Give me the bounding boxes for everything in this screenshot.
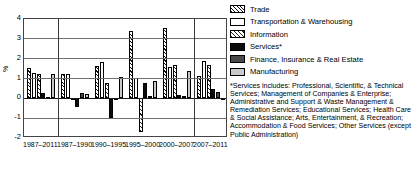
bar bbox=[139, 98, 143, 131]
bar bbox=[207, 65, 211, 99]
legend-footnote: *Services includes: Professional, Scient… bbox=[230, 82, 416, 139]
bar bbox=[129, 31, 133, 98]
y-tick-label: 0 bbox=[3, 93, 21, 101]
gridline bbox=[24, 78, 226, 79]
legend-swatch-icon bbox=[230, 18, 245, 26]
bar bbox=[32, 73, 36, 99]
zero-line bbox=[24, 98, 226, 99]
bar bbox=[109, 98, 113, 117]
plot-area: % 43210-1-2 1987–20111987–19901990–19951… bbox=[0, 0, 232, 171]
y-tick-label: 3 bbox=[3, 34, 21, 42]
legend-label: Trade bbox=[250, 5, 270, 14]
legend-item: Finance, Insurance & Real Estate bbox=[230, 53, 418, 66]
legend-label: Transportation & Warehousing bbox=[250, 17, 352, 26]
group-separator bbox=[58, 19, 59, 136]
chart-figure: % 43210-1-2 1987–20111987–19901990–19951… bbox=[0, 0, 418, 171]
legend-label: Manufacturing bbox=[250, 67, 298, 76]
bar bbox=[202, 61, 206, 98]
chart-legend: TradeTransportation & WarehousingInforma… bbox=[230, 3, 418, 171]
legend-swatch-icon bbox=[230, 5, 245, 13]
bar bbox=[173, 65, 177, 98]
gridline bbox=[24, 38, 226, 39]
x-tick-label: 2007–2011 bbox=[193, 141, 227, 148]
y-tick-label: 1 bbox=[3, 74, 21, 82]
gridline bbox=[24, 58, 226, 59]
bar bbox=[105, 83, 109, 98]
legend-items: TradeTransportation & WarehousingInforma… bbox=[230, 3, 418, 79]
group-separator bbox=[194, 19, 195, 136]
bar bbox=[119, 77, 123, 99]
bar bbox=[75, 98, 79, 106]
legend-label: Services* bbox=[250, 42, 282, 51]
x-tick-label: 2000–2007 bbox=[159, 141, 193, 148]
legend-label: Information bbox=[250, 30, 288, 39]
legend-item: Information bbox=[230, 28, 418, 41]
bar bbox=[95, 66, 99, 98]
legend-swatch-icon bbox=[230, 30, 245, 38]
legend-item: Manufacturing bbox=[230, 66, 418, 79]
legend-swatch-icon bbox=[230, 68, 245, 76]
y-tick-label: 2 bbox=[3, 54, 21, 62]
bar bbox=[143, 83, 147, 98]
x-tick-label: 1987–2011 bbox=[23, 141, 57, 148]
y-tick-label: -1 bbox=[3, 113, 21, 121]
legend-swatch-icon bbox=[230, 43, 245, 51]
y-tick-label: -2 bbox=[3, 133, 21, 141]
legend-label: Finance, Insurance & Real Estate bbox=[250, 55, 363, 64]
bar bbox=[134, 78, 138, 99]
bar bbox=[168, 67, 172, 98]
legend-item: Trade bbox=[230, 3, 418, 16]
bar bbox=[27, 68, 31, 99]
legend-item: Transportation & Warehousing bbox=[230, 16, 418, 29]
x-tick-label: 1990–1995 bbox=[91, 141, 125, 148]
x-tick-label: 1995–2000 bbox=[125, 141, 159, 148]
bar bbox=[100, 62, 104, 98]
plot-frame bbox=[23, 18, 227, 137]
x-axis-ticks: 1987–20111987–19901990–19951995–20002000… bbox=[0, 141, 232, 153]
legend-item: Services* bbox=[230, 41, 418, 54]
x-tick-label: 1987–1990 bbox=[57, 141, 91, 148]
bar bbox=[153, 81, 157, 98]
legend-swatch-icon bbox=[230, 55, 245, 63]
y-tick-label: 4 bbox=[3, 14, 21, 22]
gridline bbox=[24, 118, 226, 119]
bar bbox=[187, 71, 191, 99]
